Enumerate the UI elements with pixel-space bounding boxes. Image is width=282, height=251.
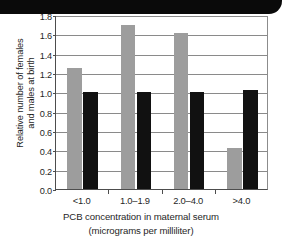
y-axis-tick-mark <box>53 93 57 94</box>
y-axis-tick-mark <box>53 171 57 172</box>
bars-layer <box>56 16 267 189</box>
y-axis-tick-label: 1.4 <box>22 52 52 61</box>
y-axis-tick-label: 0.0 <box>22 187 52 196</box>
bar-males-1 <box>137 92 152 189</box>
x-axis-tick-label: >4.0 <box>233 195 251 206</box>
bar-males-2 <box>190 92 205 189</box>
x-axis-title-line-2: (micrograms per milliliter) <box>0 224 282 238</box>
y-axis-tick-label: 1.2 <box>22 71 52 80</box>
bar-chart-figure: Relative number of females and males at … <box>0 14 282 251</box>
x-axis-tick-mark <box>162 190 163 194</box>
x-axis-tick-label: <1.0 <box>73 195 91 206</box>
y-axis-tick-mark <box>53 55 57 56</box>
y-axis-tick-label: 0.2 <box>22 168 52 177</box>
x-axis-tick-label: 1.0–1.9 <box>120 195 150 206</box>
y-axis-tick-mark <box>53 190 57 191</box>
x-axis-tick-mark <box>108 190 109 194</box>
bar-females-3 <box>227 148 242 189</box>
y-axis-tick-label: 1.8 <box>22 13 52 22</box>
x-axis-title: PCB concentration in maternal serum (mic… <box>0 210 282 238</box>
y-axis-tick-mark <box>53 151 57 152</box>
bar-females-1 <box>121 25 136 189</box>
bar-males-0 <box>83 92 98 189</box>
bar-females-0 <box>67 68 82 189</box>
y-axis-tick-label: 0.4 <box>22 149 52 158</box>
plot-area <box>55 16 268 190</box>
y-axis-tick-label: 1.0 <box>22 91 52 100</box>
y-axis-tick-mark <box>53 132 57 133</box>
bar-females-2 <box>174 33 189 189</box>
x-axis-tick-mark <box>215 190 216 194</box>
y-axis-tick-labels: 0.00.20.40.60.81.01.21.41.61.8 <box>22 16 52 190</box>
y-axis-tick-label: 0.8 <box>22 110 52 119</box>
x-axis-title-line-1: PCB concentration in maternal serum <box>0 210 282 224</box>
y-axis-tick-mark <box>53 113 57 114</box>
y-axis-tick-mark <box>53 35 57 36</box>
y-axis-tick-mark <box>53 74 57 75</box>
y-axis-tick-label: 1.6 <box>22 33 52 42</box>
x-axis-tick-label: 2.0–4.0 <box>173 195 203 206</box>
y-axis-tick-mark <box>53 16 57 17</box>
bar-males-3 <box>243 90 258 189</box>
y-axis-tick-label: 0.6 <box>22 129 52 138</box>
